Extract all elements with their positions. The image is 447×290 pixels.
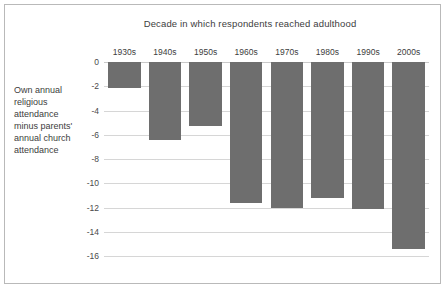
y-axis-tick-label: -6 — [75, 130, 99, 140]
x-axis-tick-label: 1930s — [104, 47, 145, 57]
y-axis-tick-label: -10 — [75, 178, 99, 188]
x-axis-tick-label: 1950s — [185, 47, 226, 57]
x-axis-tick-label: 1980s — [307, 47, 348, 57]
chart-title: Decade in which respondents reached adul… — [60, 18, 440, 29]
y-axis-tick-label: -12 — [75, 203, 99, 213]
x-axis-tick-label: 2000s — [388, 47, 429, 57]
x-axis-tick-label: 1960s — [226, 47, 267, 57]
bar — [230, 62, 263, 203]
plot-area: 0-2-4-6-8-10-12-14-16 1930s1940s1950s196… — [104, 62, 429, 266]
y-axis-tick-label: -14 — [75, 227, 99, 237]
y-axis-tick-label: -8 — [75, 154, 99, 164]
y-axis-tick-label: -4 — [75, 106, 99, 116]
y-axis-tick-label: -16 — [75, 251, 99, 261]
x-axis-tick-label: 1940s — [145, 47, 186, 57]
bar — [311, 62, 344, 198]
y-axis-tick-label: 0 — [75, 57, 99, 67]
bar — [149, 62, 182, 140]
chart-figure: Decade in which respondents reached adul… — [0, 0, 447, 290]
y-axis-tick-label: -2 — [75, 81, 99, 91]
gridline — [104, 256, 429, 257]
bar — [189, 62, 222, 126]
bar — [352, 62, 385, 209]
bar — [108, 62, 141, 88]
x-axis-tick-label: 1970s — [267, 47, 308, 57]
bar — [392, 62, 425, 249]
gridline — [104, 232, 429, 233]
y-axis-label: Own annual religious attendance minus pa… — [14, 84, 94, 157]
x-axis-tick-label: 1990s — [348, 47, 389, 57]
bar — [271, 62, 304, 208]
